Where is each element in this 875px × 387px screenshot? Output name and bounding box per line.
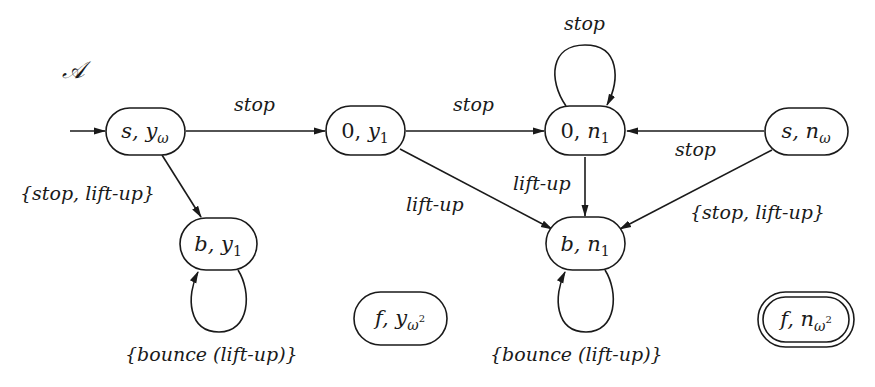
label-s_yw-b_y1: {stop, lift-up} [20, 182, 155, 204]
label-loop-b_y1: {bounce (lift-up)} [125, 343, 298, 365]
automaton-diagram: 𝒜 stop stop stop stop {stop, lift-up} li… [0, 0, 875, 387]
state-f_nw2-accepting: f, nω2 [758, 292, 854, 347]
label-loop-b_n1: {bounce (lift-up)} [490, 343, 663, 365]
state-0_n1: 0, n1 [545, 106, 625, 155]
state-b_y1: b, y1 [180, 218, 257, 270]
label-0_n1-b_n1: lift-up [513, 172, 571, 194]
state-s_yw: s, yω [106, 108, 185, 155]
edge-s_yw-b_y1 [162, 155, 201, 217]
loop-0_n1 [555, 45, 615, 106]
label-0_y1-b_n1: lift-up [406, 193, 464, 215]
state-0_y1: 0, y1 [326, 106, 405, 155]
state-f_yw2: f, yω2 [354, 292, 447, 345]
state-s_nw: s, nω [765, 108, 848, 155]
label-s_yw-0_y1: stop [234, 93, 275, 115]
loop-b_n1 [558, 270, 613, 332]
automaton-title: 𝒜 [62, 56, 92, 84]
label-0_y1-0_n1: stop [453, 93, 494, 115]
label-s_nw-b_n1: {stop, lift-up} [690, 201, 825, 223]
label-loop-0_n1: stop [564, 12, 605, 34]
loop-b_y1 [191, 270, 246, 332]
state-b_n1: b, n1 [546, 217, 625, 270]
label-s_nw-0_n1: stop [675, 138, 716, 160]
